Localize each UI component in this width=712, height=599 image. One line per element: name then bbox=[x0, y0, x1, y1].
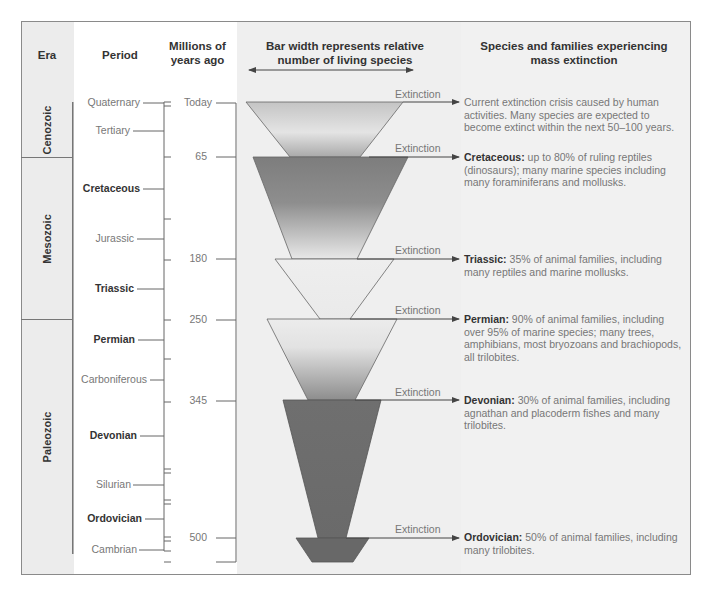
period-cambrian: Cambrian bbox=[91, 543, 137, 555]
period-ordovician: Ordovician bbox=[87, 512, 142, 524]
funnel-segment-devonian bbox=[283, 400, 381, 538]
extinction-label-4: Extinction bbox=[395, 304, 441, 316]
year-180: 180 bbox=[189, 252, 207, 264]
period-permian: Permian bbox=[94, 333, 135, 345]
funnel-segment-cenozoic bbox=[246, 102, 403, 157]
period-cretaceous: Cretaceous bbox=[83, 182, 140, 194]
extinction-desc-current: Current extinction crisis caused by huma… bbox=[464, 96, 684, 134]
period-quaternary: Quaternary bbox=[87, 96, 140, 108]
period-devonian: Devonian bbox=[90, 429, 137, 441]
extinction-desc-triassic: Triassic: 35% of animal families, includ… bbox=[464, 253, 684, 278]
diagram-graphics bbox=[0, 0, 712, 599]
extinction-label-6: Extinction bbox=[395, 523, 441, 535]
period-tertiary: Tertiary bbox=[96, 124, 130, 136]
extinction-label-3: Extinction bbox=[395, 244, 441, 256]
extinction-desc-current-text: Current extinction crisis caused by huma… bbox=[464, 96, 674, 133]
period-jurassic: Jurassic bbox=[95, 232, 134, 244]
period-triassic: Triassic bbox=[95, 282, 134, 294]
year-250: 250 bbox=[189, 313, 207, 325]
period-boundary-ticks bbox=[164, 102, 171, 551]
extinction-desc-ordovician: Ordovician: 50% of animal families, incl… bbox=[464, 531, 684, 556]
extinction-desc-cretaceous-title: Cretaceous: bbox=[464, 151, 525, 163]
period-leaders bbox=[133, 103, 164, 550]
extinction-desc-permian: Permian: 90% of animal families, includi… bbox=[464, 313, 684, 363]
period-carboniferous: Carboniferous bbox=[81, 373, 147, 385]
extinction-desc-cretaceous: Cretaceous: up to 80% of ruling reptiles… bbox=[464, 151, 684, 189]
funnel-segment-ordovician bbox=[296, 538, 369, 562]
year-500: 500 bbox=[189, 531, 207, 543]
extinction-desc-devonian: Devonian: 30% of animal families, includ… bbox=[464, 394, 684, 432]
extinction-desc-triassic-title: Triassic: bbox=[464, 253, 507, 265]
year-345: 345 bbox=[189, 394, 207, 406]
extinction-desc-permian-title: Permian: bbox=[464, 313, 509, 325]
extinction-label-2: Extinction bbox=[395, 142, 441, 154]
years-leaders bbox=[164, 103, 236, 562]
extinction-label-5: Extinction bbox=[395, 386, 441, 398]
extinction-label-1: Extinction bbox=[395, 88, 441, 100]
funnel-segment-mesozoic-upper bbox=[253, 157, 408, 259]
year-today: Today bbox=[184, 96, 212, 108]
year-65: 65 bbox=[195, 150, 207, 162]
extinction-desc-devonian-title: Devonian: bbox=[464, 394, 515, 406]
funnel-segment-triassic bbox=[275, 259, 394, 319]
extinction-desc-ordovician-title: Ordovician: bbox=[464, 531, 522, 543]
funnel-segment-permian bbox=[267, 319, 397, 400]
period-silurian: Silurian bbox=[96, 478, 131, 490]
